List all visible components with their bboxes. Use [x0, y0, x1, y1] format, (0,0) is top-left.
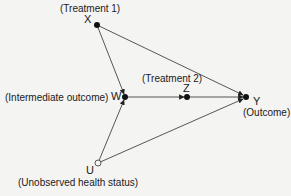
- w-description: (Intermediate outcome): [5, 92, 108, 103]
- node-z: [184, 94, 190, 100]
- w-label: W: [111, 91, 121, 102]
- x-label: X: [84, 14, 91, 25]
- edge-x-y: [97, 25, 243, 95]
- u-description: (Unobserved health status): [18, 177, 138, 188]
- edge-x-w: [97, 25, 124, 94]
- node-w: [122, 94, 128, 100]
- node-u: [95, 160, 101, 166]
- node-x: [94, 22, 100, 28]
- u-label: U: [86, 165, 94, 176]
- node-y: [243, 94, 249, 100]
- z-label: Z: [183, 83, 190, 94]
- y-description: (Outcome): [243, 107, 290, 118]
- y-label: Y: [253, 96, 260, 107]
- z-description: (Treatment 2): [142, 73, 202, 84]
- edge-u-y: [98, 99, 243, 163]
